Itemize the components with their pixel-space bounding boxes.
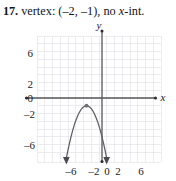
- coordinate-graph: y x 6 2 0 –2 –6 –6 –2 0 2 6: [0, 22, 176, 181]
- problem-statement-prefix: vertex: (–2, –1), no: [21, 4, 119, 18]
- y-tick-label-6: 6: [28, 47, 34, 59]
- x-tick-label-0: 0: [104, 165, 110, 177]
- problem-statement-suffix: -int.: [124, 4, 144, 18]
- x-tick-label-neg2: –2: [88, 165, 100, 177]
- x-axis-right-endpoint-dot: [154, 97, 157, 100]
- right-branch-arrowhead: [103, 157, 110, 165]
- y-tick-label-2: 2: [28, 78, 34, 90]
- x-tick-label-2: 2: [115, 165, 121, 177]
- y-tick-label-0: 0: [28, 92, 34, 104]
- y-axis-label: y: [96, 22, 102, 31]
- problem-header: 17. vertex: (–2, –1), no x-int.: [3, 2, 176, 22]
- left-branch-arrowhead: [63, 157, 70, 165]
- y-axis-bottom-endpoint-dot: [101, 160, 104, 163]
- x-tick-label-neg6: –6: [65, 165, 78, 177]
- graph-svg: y x 6 2 0 –2 –6 –6 –2 0 2 6: [0, 22, 176, 181]
- problem-number: 17.: [3, 4, 18, 18]
- y-tick-label-neg6: –6: [23, 139, 36, 151]
- y-tick-label-neg2: –2: [23, 108, 35, 120]
- vertex-marker-dot: [85, 104, 89, 108]
- x-axis-label: x: [160, 91, 166, 103]
- grid-lines: [37, 36, 161, 162]
- x-tick-label-6: 6: [138, 165, 144, 177]
